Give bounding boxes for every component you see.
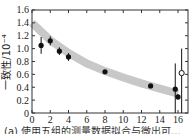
y-axis: 00.20.40.60.81.01.21.41.6 xyxy=(17,4,189,118)
data-point-open xyxy=(179,70,184,75)
data-point xyxy=(175,94,180,99)
y-tick-label: 1.4 xyxy=(17,17,30,28)
figure-caption: (a) 使用五组的测量数据拟合与微出可... xyxy=(4,123,181,134)
y-tick-label: 0.4 xyxy=(17,82,30,93)
y-tick-label: 0.8 xyxy=(17,56,30,67)
data-point xyxy=(173,87,178,92)
y-tick-label: 0.6 xyxy=(17,69,30,80)
y-tick-label: 0.2 xyxy=(17,95,30,106)
data-point xyxy=(39,43,44,48)
data-point xyxy=(66,54,71,59)
plot-frame xyxy=(32,10,188,113)
data-point xyxy=(57,49,62,54)
y-tick-label: 1.0 xyxy=(17,43,30,54)
y-tick-label: 1.2 xyxy=(17,30,30,41)
data-point xyxy=(102,69,107,74)
y-tick-label: 0 xyxy=(24,108,29,119)
data-point xyxy=(148,83,153,88)
data-point xyxy=(48,38,53,43)
y-axis-label: 一致性/10⁻⁴ xyxy=(0,34,12,89)
chart-svg: 0246810121416 00.20.40.60.81.01.21.41.6 … xyxy=(0,0,192,134)
fit-band xyxy=(32,23,178,94)
y-tick-label: 1.6 xyxy=(17,4,30,15)
